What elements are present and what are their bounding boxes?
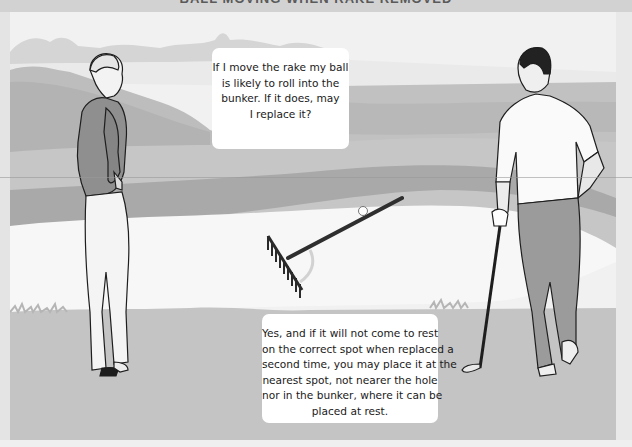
golf-ball xyxy=(359,207,368,216)
question-line: bunker. If it does, may xyxy=(212,91,349,107)
answer-line: Yes, and if it will not come to rest xyxy=(262,326,438,342)
question-line: I replace it? xyxy=(212,107,349,123)
question-speech-bubble: If I move the rake my ball is likely to … xyxy=(212,48,349,149)
fold-line-divider xyxy=(0,177,632,178)
title-strip: BALL MOVING WHEN RAKE REMOVED xyxy=(0,0,632,12)
page-title: BALL MOVING WHEN RAKE REMOVED xyxy=(0,0,632,6)
answer-line: nor in the bunker, where it can be xyxy=(262,388,438,404)
answer-line: nearest spot, not nearer the hole xyxy=(262,373,438,389)
answer-speech-bubble: Yes, and if it will not come to rest on … xyxy=(262,314,438,423)
left-margin xyxy=(0,12,10,447)
question-line: is likely to roll into the xyxy=(212,76,349,92)
illustration-panel: If I move the rake my ball is likely to … xyxy=(10,12,616,440)
answer-line: second time, you may place it at the xyxy=(262,357,438,373)
bottom-margin xyxy=(0,440,632,447)
answer-line: on the correct spot when replaced a xyxy=(262,342,438,358)
question-line: If I move the rake my ball xyxy=(212,60,349,76)
answer-line: placed at rest. xyxy=(262,404,438,420)
